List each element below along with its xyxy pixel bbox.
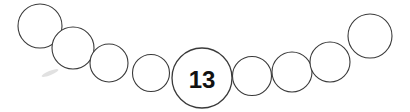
chain-node[interactable] [133,55,170,92]
chain-circle-empty[interactable] [348,14,392,58]
chain-circle-empty[interactable] [90,44,128,82]
chain-circle-empty[interactable] [52,27,94,69]
artifact-layer [41,68,59,79]
chain-node[interactable]: 13 [172,48,232,108]
chain-circle-empty[interactable] [233,57,272,96]
paper-smudge-artifact [41,68,59,79]
chain-circle-empty[interactable] [133,55,170,92]
chain-circle-empty[interactable] [310,42,350,82]
circle-chain-diagram: 13 [0,0,410,112]
chain-node[interactable] [90,44,128,82]
circle-node-layer: 13 [18,4,392,108]
chain-node[interactable] [272,52,312,92]
chain-node-label: 13 [189,66,216,93]
chain-node[interactable] [348,14,392,58]
chain-node[interactable] [310,42,350,82]
chain-node[interactable] [233,57,272,96]
chain-circle-empty[interactable] [272,52,312,92]
diagram-canvas: 13 [0,0,410,112]
chain-node[interactable] [52,27,94,69]
